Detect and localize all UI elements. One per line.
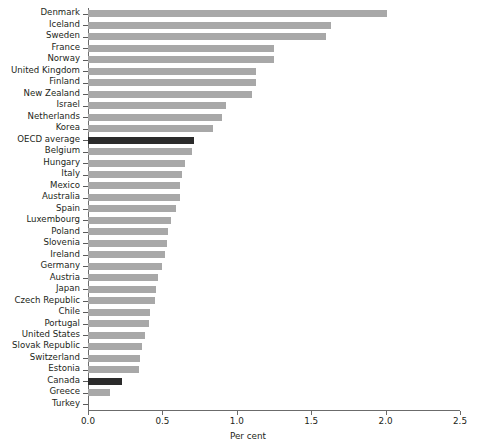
category-label: Belgium	[0, 145, 80, 157]
bar	[88, 45, 274, 52]
bar-row	[88, 376, 460, 388]
category-label: Chile	[0, 306, 80, 318]
bar-row	[88, 261, 460, 273]
bar	[88, 56, 274, 63]
bar-row	[88, 318, 460, 330]
category-label: Spain	[0, 203, 80, 215]
bar-row	[88, 31, 460, 43]
category-label: Denmark	[0, 7, 80, 19]
x-axis-tick	[460, 411, 461, 415]
bar	[88, 68, 256, 75]
bar-row	[88, 65, 460, 77]
bar	[88, 10, 387, 17]
bar	[88, 114, 222, 121]
bar	[88, 320, 149, 327]
x-axis-line	[88, 410, 460, 411]
x-axis-tick-label: 0.0	[81, 416, 95, 426]
category-label: Mexico	[0, 180, 80, 192]
bar	[88, 217, 171, 224]
x-axis-tick-label: 0.5	[155, 416, 169, 426]
bar-row	[88, 238, 460, 250]
bar-row	[88, 111, 460, 123]
category-label: Israel	[0, 99, 80, 111]
bar	[88, 297, 155, 304]
category-label: OECD average	[0, 134, 80, 146]
category-label: Germany	[0, 260, 80, 272]
bar-row	[88, 19, 460, 31]
x-axis-tick	[88, 411, 89, 415]
category-label: Norway	[0, 53, 80, 65]
bar-row	[88, 364, 460, 376]
bar	[88, 148, 192, 155]
x-axis-tick-label: 1.0	[230, 416, 244, 426]
bar	[88, 366, 139, 373]
category-label: Australia	[0, 191, 80, 203]
bar-row	[88, 100, 460, 112]
category-label: Korea	[0, 122, 80, 134]
bar-row	[88, 42, 460, 54]
x-axis-tick-label: 2.5	[453, 416, 467, 426]
category-label: United States	[0, 329, 80, 341]
category-label: Japan	[0, 283, 80, 295]
bar-row	[88, 341, 460, 353]
plot-area	[88, 8, 460, 410]
category-label: United Kingdom	[0, 65, 80, 77]
x-axis-tick	[237, 411, 238, 415]
bar-row	[88, 123, 460, 135]
bar-row	[88, 54, 460, 66]
bar-row	[88, 180, 460, 192]
bar	[88, 332, 145, 339]
bar-row	[88, 399, 460, 411]
x-axis-tick	[311, 411, 312, 415]
bar-row	[88, 272, 460, 284]
bar	[88, 251, 165, 258]
bar	[88, 22, 331, 29]
bar-row	[88, 203, 460, 215]
bar-row	[88, 387, 460, 399]
bar-row	[88, 157, 460, 169]
bar	[88, 240, 167, 247]
x-axis-title-text: Per cent	[230, 431, 266, 441]
bar-row	[88, 8, 460, 20]
category-label: Estonia	[0, 363, 80, 375]
bar-chart: DenmarkIcelandSwedenFranceNorwayUnited K…	[0, 0, 482, 448]
bar	[88, 389, 110, 396]
x-axis-tick-label: 2.0	[379, 416, 393, 426]
bar-row	[88, 330, 460, 342]
bar	[88, 274, 158, 281]
category-label: Hungary	[0, 157, 80, 169]
bar	[88, 263, 162, 270]
category-label: Sweden	[0, 30, 80, 42]
x-axis-tick-label: 1.5	[304, 416, 318, 426]
bar	[88, 137, 194, 144]
bar-row	[88, 77, 460, 89]
category-label: Switzerland	[0, 352, 80, 364]
bar-row	[88, 169, 460, 181]
bar	[88, 205, 176, 212]
bar-row	[88, 295, 460, 307]
bar-row	[88, 215, 460, 227]
bar	[88, 160, 185, 167]
category-label: Turkey	[0, 398, 80, 410]
x-axis-tick	[162, 411, 163, 415]
category-label: Austria	[0, 272, 80, 284]
bar-row	[88, 192, 460, 204]
bar	[88, 286, 156, 293]
bar	[88, 355, 140, 362]
bar	[88, 309, 150, 316]
x-axis-title: Per cent	[0, 431, 482, 441]
bar	[88, 33, 326, 40]
bar	[88, 102, 226, 109]
category-label: France	[0, 42, 80, 54]
bar-row	[88, 353, 460, 365]
category-label: Ireland	[0, 249, 80, 261]
category-label: Greece	[0, 386, 80, 398]
bar-row	[88, 88, 460, 100]
bar	[88, 125, 213, 132]
bar	[88, 378, 122, 385]
bar	[88, 228, 168, 235]
category-label: Netherlands	[0, 111, 80, 123]
bar-row	[88, 226, 460, 238]
category-label: Finland	[0, 76, 80, 88]
bar-row	[88, 134, 460, 146]
